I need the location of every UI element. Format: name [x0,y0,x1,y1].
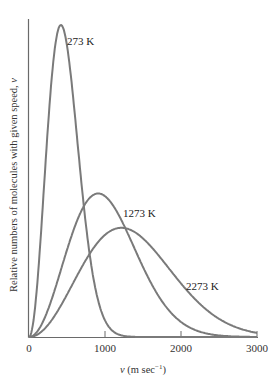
curves [29,25,257,337]
x-tick-label: 2000 [170,342,193,354]
x-axis-label: v (m sec−1) [120,363,166,376]
maxwell-boltzmann-chart: 0100020003000 273 K1273 K2273 K v (m sec… [0,0,277,383]
curve-label: 2273 K [186,280,219,292]
y-axis-label: Relative numbers of molecules with given… [8,78,19,292]
curve-273k [29,25,257,337]
x-ticks: 0100020003000 [26,331,268,354]
curve-2273k [29,228,257,337]
curve-label: 1273 K [123,207,156,219]
curve-label: 273 K [67,35,94,47]
x-tick-label: 3000 [246,342,269,354]
x-tick-label: 0 [26,342,32,354]
x-tick-label: 1000 [94,342,117,354]
